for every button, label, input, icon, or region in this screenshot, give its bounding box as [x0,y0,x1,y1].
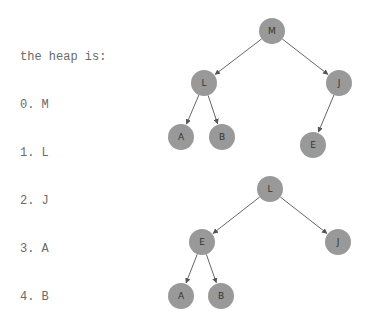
tree-node-label: A [178,291,185,301]
tree-node-label: L [267,184,272,194]
tree-edge-arrow [186,254,197,283]
tree-node-label: J [337,78,341,88]
tree-edge-arrow [213,197,260,233]
tree-edge-arrow [206,254,216,283]
heap-tree-1: MLJABE [168,18,352,158]
tree-edge-arrow [208,95,217,123]
heap-tree-diagrams: MLJABELEJAB [0,0,372,321]
tree-node-label: L [201,78,206,88]
tree-edge-arrow [186,95,198,124]
tree-node-label: B [219,132,225,142]
tree-node-label: M [268,26,276,36]
tree-node-label: E [199,237,205,247]
tree-node-label: A [178,132,185,142]
tree-node-label: E [310,140,316,150]
tree-node-label: B [218,291,224,301]
heap-tree-2: LEJAB [168,176,351,309]
tree-edge-arrow [215,39,262,75]
tree-edge-arrow [282,39,328,74]
tree-node-label: J [336,237,340,247]
tree-edge-arrow [318,95,334,132]
tree-edge-arrow [280,197,327,233]
